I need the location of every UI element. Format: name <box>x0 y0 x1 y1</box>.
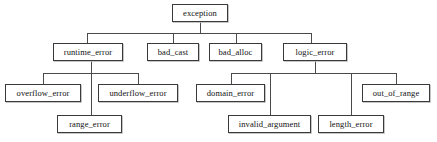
node-label-overflow_error: overflow_error <box>17 89 70 98</box>
connector-e-exception-stem <box>200 22 201 33</box>
node-exception[interactable]: exception <box>172 4 228 22</box>
connector-e-drop-length_error <box>351 73 352 115</box>
node-logic_error[interactable]: logic_error <box>283 43 347 61</box>
connector-e-drop-bad_alloc <box>236 33 237 43</box>
connector-e-drop-range_error <box>91 73 92 115</box>
node-label-exception: exception <box>183 9 217 17</box>
connector-e-drop-invalid_argument <box>270 73 271 115</box>
connector-e-drop-runtime_error <box>87 33 88 43</box>
connector-e-drop-underflow_error <box>138 73 139 84</box>
node-label-length_error: length_error <box>329 120 372 129</box>
connector-e-drop-bad_cast <box>173 33 174 43</box>
node-invalid_argument[interactable]: invalid_argument <box>228 115 311 133</box>
node-label-invalid_argument: invalid_argument <box>239 120 300 129</box>
node-runtime_error[interactable]: runtime_error <box>53 43 123 61</box>
node-range_error[interactable]: range_error <box>57 115 122 133</box>
node-out_of_range[interactable]: out_of_range <box>362 84 430 102</box>
node-label-out_of_range: out_of_range <box>373 89 420 98</box>
node-domain_error[interactable]: domain_error <box>196 84 265 102</box>
node-label-runtime_error: runtime_error <box>64 48 113 57</box>
exception-hierarchy-diagram: exceptionruntime_errorbad_castbad_allocl… <box>0 0 437 142</box>
node-label-domain_error: domain_error <box>207 89 254 98</box>
connector-e-drop-logic_error <box>311 33 312 43</box>
connector-e-drop-out_of_range <box>396 73 397 84</box>
connector-e-drop-domain_error <box>231 73 232 84</box>
node-label-range_error: range_error <box>69 120 110 129</box>
node-label-logic_error: logic_error <box>296 48 335 57</box>
node-label-bad_alloc: bad_alloc <box>219 48 253 57</box>
connector-e-logic-bus <box>231 73 396 74</box>
connector-e-root-bus <box>87 33 312 34</box>
node-label-bad_cast: bad_cast <box>158 48 189 57</box>
connector-e-drop-overflow_error <box>43 73 44 84</box>
node-label-underflow_error: underflow_error <box>109 89 166 98</box>
connector-e-logic-stem <box>315 61 316 73</box>
node-bad_cast[interactable]: bad_cast <box>147 43 199 61</box>
node-overflow_error[interactable]: overflow_error <box>5 84 81 102</box>
connector-e-runtime-stem <box>91 61 92 73</box>
node-underflow_error[interactable]: underflow_error <box>98 84 178 102</box>
node-length_error[interactable]: length_error <box>318 115 384 133</box>
node-bad_alloc[interactable]: bad_alloc <box>209 43 262 61</box>
